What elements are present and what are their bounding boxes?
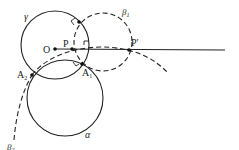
label-A2: A2 [17, 69, 27, 81]
point-T [77, 20, 81, 24]
diagram-svg: γ α β1 β2 O P P′ A1 A2 [0, 0, 239, 150]
label-P-prime: P′ [131, 37, 139, 48]
point-A2 [30, 73, 34, 77]
point-O [53, 47, 57, 51]
point-P-prime [127, 48, 131, 52]
point-A1 [80, 62, 84, 66]
label-P: P [63, 38, 69, 49]
right-angle-marker-beta1 [84, 41, 88, 45]
ray-OP [55, 49, 225, 50]
label-beta2: β2 [6, 142, 14, 150]
label-A2-sub: 2 [24, 75, 27, 81]
label-alpha: α [85, 129, 91, 140]
geometry-diagram: γ α β1 β2 O P P′ A1 A2 [0, 0, 239, 150]
label-beta1: β1 [121, 7, 129, 18]
label-O: O [43, 44, 50, 55]
circle-beta1 [74, 13, 132, 71]
point-P [70, 47, 74, 51]
label-beta1-sub: 1 [126, 12, 129, 18]
circle-alpha [27, 60, 103, 136]
label-beta2-sub: 2 [11, 147, 14, 150]
label-A1-sub: 1 [89, 73, 92, 79]
right-angle-marker-top [71, 18, 75, 25]
label-gamma: γ [24, 11, 29, 22]
